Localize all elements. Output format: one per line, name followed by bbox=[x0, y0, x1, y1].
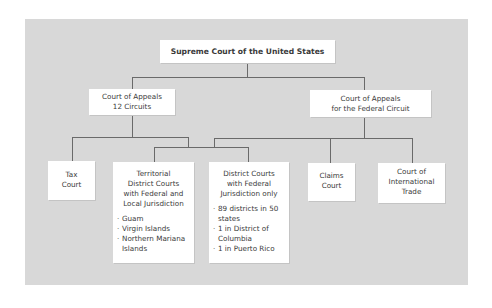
node-label: Court of bbox=[378, 167, 445, 177]
connector-line bbox=[214, 138, 215, 147]
node-label: Territorial bbox=[113, 169, 194, 179]
connector-line bbox=[364, 117, 365, 139]
connector-line bbox=[247, 63, 248, 77]
connector-line bbox=[214, 138, 413, 139]
node-label: Local Jurisdiction bbox=[113, 199, 194, 209]
node-label: Jurisdiction only bbox=[209, 189, 289, 199]
district-courts-node: District Courts with Federal Jurisdictio… bbox=[209, 162, 289, 263]
tax-court-node: Tax Court bbox=[48, 161, 95, 200]
node-label: Claims bbox=[308, 171, 355, 181]
connector-line bbox=[132, 77, 365, 78]
connector-line bbox=[72, 137, 189, 138]
court-of-appeals-circuits-node: Court of Appeals 12 Circuits bbox=[89, 89, 175, 115]
territorial-district-courts-node: Territorial District Courts with Federal… bbox=[113, 162, 194, 263]
connector-line bbox=[412, 138, 413, 163]
node-label: Court of Appeals bbox=[310, 94, 431, 104]
node-label: District Courts bbox=[113, 179, 194, 189]
list-item: 89 districts in 50 states bbox=[212, 204, 289, 224]
node-label: with Federal bbox=[209, 179, 289, 189]
connector-line bbox=[72, 137, 73, 161]
connector-line bbox=[364, 77, 365, 90]
connector-line bbox=[132, 77, 133, 89]
connector-line bbox=[154, 147, 249, 148]
node-label: International bbox=[378, 177, 445, 187]
list-item: 1 in Puerto Rico bbox=[212, 244, 289, 254]
node-label: Court bbox=[308, 181, 355, 191]
connector-line bbox=[154, 147, 155, 162]
list-item: Guam bbox=[116, 214, 194, 224]
node-label: Trade bbox=[378, 187, 445, 197]
node-label: for the Federal Circuit bbox=[310, 104, 431, 114]
court-of-international-trade-node: Court of International Trade bbox=[378, 163, 445, 203]
connector-line bbox=[132, 115, 133, 137]
list-item: Northern Mariana Islands bbox=[116, 234, 194, 254]
territorial-list: Guam Virgin Islands Northern Mariana Isl… bbox=[113, 214, 194, 254]
district-list: 89 districts in 50 states 1 in District … bbox=[209, 204, 289, 254]
node-label: with Federal and bbox=[113, 189, 194, 199]
list-item: 1 in District of Columbia bbox=[212, 224, 289, 244]
node-label: 12 Circuits bbox=[89, 102, 175, 112]
court-of-appeals-federal-node: Court of Appeals for the Federal Circuit bbox=[310, 90, 431, 117]
node-label: Tax bbox=[48, 170, 95, 180]
connector-line bbox=[188, 137, 189, 147]
supreme-court-node: Supreme Court of the United States bbox=[160, 40, 335, 63]
list-item: Virgin Islands bbox=[116, 224, 194, 234]
node-label: Court of Appeals bbox=[89, 92, 175, 102]
supreme-court-label: Supreme Court of the United States bbox=[160, 47, 335, 57]
claims-court-node: Claims Court bbox=[308, 163, 355, 201]
node-label: District Courts bbox=[209, 169, 289, 179]
connector-line bbox=[330, 138, 331, 163]
connector-line bbox=[248, 147, 249, 162]
node-label: Court bbox=[48, 180, 95, 190]
